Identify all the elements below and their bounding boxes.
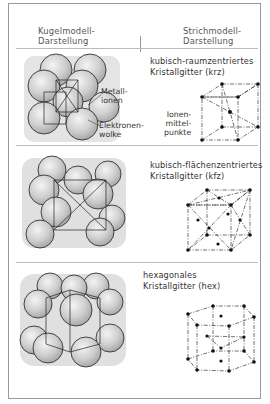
header-divider bbox=[16, 48, 258, 49]
section-divider-2 bbox=[16, 262, 258, 263]
header-left-line2: Darstellung bbox=[38, 36, 95, 46]
bcc-line-model bbox=[190, 82, 265, 147]
label-ion-centers-line2: mittel- bbox=[164, 119, 191, 128]
label-ion-centers: Ionen- mittel- punkte bbox=[164, 110, 191, 137]
header-left-line1: Kugelmodell- bbox=[38, 26, 95, 36]
bcc-title-line1: kubisch-raumzentriertes bbox=[150, 56, 253, 67]
fcc-title: kubisch-flächenzentriertes Kristallgitte… bbox=[150, 160, 262, 182]
hex-line-model bbox=[184, 303, 259, 375]
header-right-line2: Darstellung bbox=[183, 36, 241, 46]
fcc-title-line1: kubisch-flächenzentriertes bbox=[150, 160, 262, 171]
hex-ball-model bbox=[18, 270, 128, 370]
leader-lines-bcc bbox=[86, 90, 106, 140]
label-ion-centers-line3: punkte bbox=[164, 128, 191, 137]
bcc-title: kubisch-raumzentriertes Kristallgitter (… bbox=[150, 56, 253, 78]
fcc-title-line2: Kristallgitter (kfz) bbox=[150, 171, 262, 182]
header-line-model: Strichmodell- Darstellung bbox=[183, 26, 241, 46]
fcc-line-model bbox=[184, 188, 259, 256]
bcc-title-line2: Kristallgitter (krz) bbox=[150, 67, 253, 78]
header-column-separator bbox=[140, 36, 141, 52]
fcc-ball-model bbox=[18, 152, 128, 252]
hex-title-line1: hexagonales bbox=[143, 270, 220, 281]
hex-title-line2: Kristallgitter (hex) bbox=[143, 281, 220, 292]
label-ion-centers-line1: Ionen- bbox=[164, 110, 191, 119]
header-ball-model: Kugelmodell- Darstellung bbox=[38, 26, 95, 46]
hex-title: hexagonales Kristallgitter (hex) bbox=[143, 270, 220, 292]
header-right-line1: Strichmodell- bbox=[183, 26, 241, 36]
